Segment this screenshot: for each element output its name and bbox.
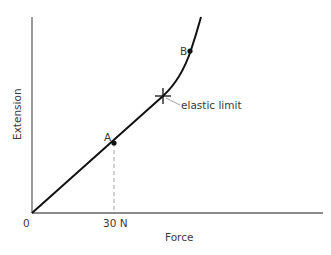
- point-b-marker: [187, 48, 192, 53]
- x-axis-title: Force: [165, 231, 193, 243]
- elastic-limit-leader: [166, 98, 180, 105]
- point-a-marker: [111, 140, 116, 145]
- point-a-label: A: [104, 131, 112, 143]
- force-extension-curve: [32, 17, 201, 213]
- point-b-label: B: [180, 45, 187, 57]
- origin-label: 0: [23, 217, 30, 229]
- y-axis-title: Extension: [11, 88, 23, 140]
- x-tick-30n-label: 30 N: [103, 217, 128, 229]
- force-extension-graph: elastic limit A B 0 30 N Force Extension: [0, 0, 331, 255]
- elastic-limit-label: elastic limit: [181, 99, 242, 111]
